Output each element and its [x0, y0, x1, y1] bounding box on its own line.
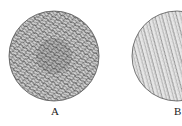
panel-a-circle — [8, 10, 100, 102]
diagram-canvas — [0, 0, 182, 126]
panel-b-label: B — [174, 106, 181, 117]
panel-a-label: A — [51, 106, 59, 117]
panel-b-circle — [131, 10, 182, 102]
